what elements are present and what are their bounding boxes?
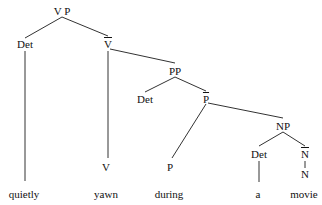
tree-node-np: NP — [276, 120, 290, 132]
tree-node-pbar: P — [203, 93, 209, 105]
tree-leaf-w3: during — [155, 188, 184, 200]
tree-edge — [145, 77, 175, 92]
tree-edge — [172, 104, 206, 158]
tree-node-det1: Det — [17, 38, 33, 50]
tree-node-n: N — [301, 168, 309, 180]
tree-edge — [259, 132, 283, 146]
tree-edge — [25, 17, 62, 38]
tree-leaf-w2: yawn — [94, 188, 118, 200]
tree-node-v: V — [102, 161, 110, 173]
tree-node-vbar: V — [104, 38, 112, 50]
tree-node-vp: V P — [54, 5, 71, 17]
tree-node-det2: Det — [137, 93, 153, 105]
tree-leaf-w5: movie — [290, 188, 318, 200]
tree-node-det3: Det — [251, 148, 267, 160]
tree-node-p: P — [167, 161, 173, 173]
tree-edge — [208, 103, 283, 118]
tree-edges — [0, 0, 322, 205]
tree-node-nbar: N — [301, 148, 309, 160]
tree-edge — [283, 132, 305, 146]
tree-edge — [62, 17, 108, 36]
tree-node-pp: PP — [169, 65, 181, 77]
tree-leaf-w4: a — [256, 188, 261, 200]
tree-edge — [110, 49, 175, 63]
tree-edge — [175, 77, 206, 91]
tree-leaf-w1: quietly — [9, 188, 40, 200]
